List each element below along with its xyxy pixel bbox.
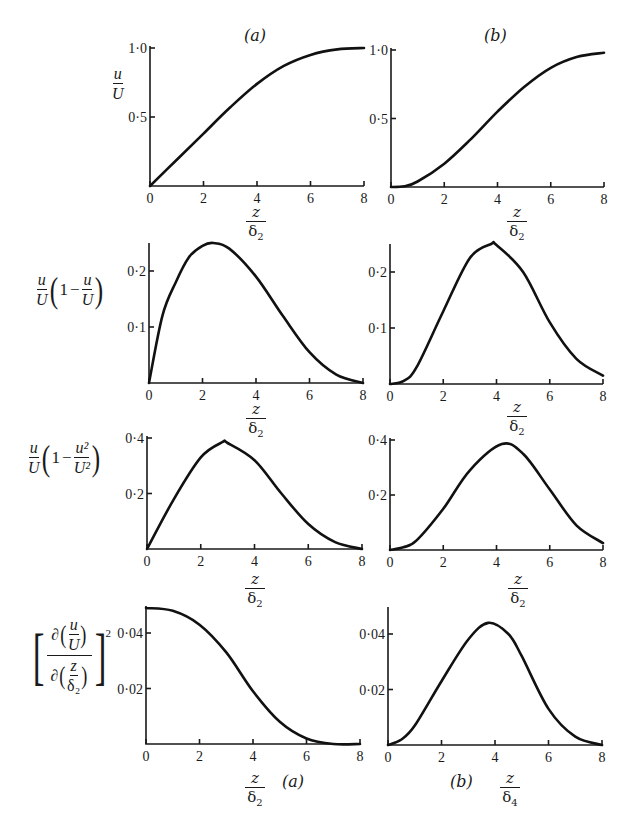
x-tick-label: 4: [251, 554, 258, 569]
x-tick-label: 0: [143, 749, 150, 764]
x-tick-label: 0: [146, 388, 153, 403]
axes-a4: [146, 606, 360, 744]
x-label-b4: zδ4: [500, 771, 520, 808]
x-label-a4: zδ2: [245, 771, 265, 808]
panel-a2: 024680·10·2: [127, 243, 366, 403]
curve-b1: [391, 53, 604, 187]
y-tick-label: 0·2: [368, 265, 387, 280]
x-tick-label: 8: [600, 555, 607, 570]
y-label-row2: uU(1−uU): [36, 272, 105, 308]
x-tick-label: 0: [147, 191, 154, 206]
panel-a1: 024680·51·0: [128, 41, 367, 206]
x-tick-label: 8: [600, 389, 607, 404]
x-tick-label: 2: [199, 388, 206, 403]
y-label-row4: [ ∂(uU) ∂(zδ₂) ] 2: [28, 617, 111, 694]
x-tick-label: 8: [361, 191, 368, 206]
x-tick-label: 8: [360, 388, 367, 403]
y-tick-label: 0·02: [117, 682, 143, 697]
y-tick-label: 0·4: [125, 431, 144, 446]
x-tick-label: 6: [547, 192, 554, 207]
x-tick-label: 2: [441, 192, 448, 207]
y-tick-label: 0·02: [359, 683, 385, 698]
curve-a3: [147, 441, 362, 549]
x-tick-label: 2: [438, 750, 445, 765]
panel-b1: 024680·51·0: [369, 43, 607, 207]
y-tick-label: 0·2: [125, 487, 144, 502]
x-tick-label: 4: [492, 750, 499, 765]
axes-b4: [388, 607, 602, 745]
x-tick-label: 6: [307, 191, 314, 206]
panel-a3: 024680·20·4: [125, 431, 365, 569]
y-tick-label: 0·04: [117, 626, 143, 641]
y-label-row1: uU: [112, 66, 124, 102]
x-label-a1: zδ2: [246, 205, 266, 242]
panel-a4: 024680·020·04: [117, 606, 363, 764]
x-tick-label: 2: [197, 554, 204, 569]
x-tick-label: 2: [440, 389, 447, 404]
x-tick-label: 4: [250, 749, 257, 764]
x-tick-label: 6: [306, 388, 313, 403]
y-tick-label: 0·1: [127, 320, 146, 335]
panel-title-b: (b): [484, 26, 507, 45]
y-tick-label: 0·2: [368, 488, 387, 503]
x-tick-label: 0: [387, 389, 394, 404]
y-tick-label: 1·0: [369, 43, 388, 58]
x-tick-label: 8: [599, 750, 606, 765]
x-tick-label: 2: [440, 555, 447, 570]
caption-a: (a): [282, 772, 304, 791]
x-tick-label: 6: [303, 749, 310, 764]
curve-b4: [388, 623, 602, 745]
curve-a4: [146, 608, 360, 744]
x-tick-label: 6: [546, 389, 553, 404]
y-tick-label: 0·1: [368, 321, 387, 336]
x-tick-label: 8: [359, 554, 366, 569]
x-tick-label: 6: [305, 554, 312, 569]
axes-a1: [150, 46, 364, 186]
panel-b4: 024680·020·04: [359, 607, 605, 765]
x-tick-label: 4: [493, 389, 500, 404]
x-tick-label: 8: [357, 749, 364, 764]
x-tick-label: 8: [601, 192, 608, 207]
axes-b1: [391, 48, 604, 187]
x-label-b1: zδ2: [507, 205, 527, 242]
x-label-a3: zδ2: [245, 572, 265, 609]
panel-title-a: (a): [244, 26, 266, 45]
y-tick-label: 1·0: [128, 41, 147, 56]
caption-b: (b): [450, 772, 473, 791]
x-tick-label: 0: [385, 750, 392, 765]
curve-a1: [150, 48, 364, 186]
curve-a2: [149, 243, 363, 383]
axes-b2: [390, 244, 603, 384]
panel-b2: 024680·10·2: [368, 242, 606, 404]
curve-b2: [390, 242, 603, 384]
x-tick-label: 6: [545, 750, 552, 765]
x-tick-label: 0: [388, 192, 395, 207]
panel-b3: 024680·20·4: [368, 433, 606, 570]
x-label-b3: zδ2: [508, 572, 528, 609]
y-tick-label: 0·5: [128, 110, 147, 125]
x-tick-label: 0: [144, 554, 151, 569]
y-tick-label: 0·04: [359, 627, 385, 642]
x-label-b2: zδ2: [507, 400, 527, 437]
x-tick-label: 4: [493, 555, 500, 570]
x-tick-label: 6: [546, 555, 553, 570]
axes-a2: [149, 243, 363, 383]
x-tick-label: 4: [494, 192, 501, 207]
y-tick-label: 0·4: [368, 433, 387, 448]
y-label-row3: uU(1−u²U²): [28, 440, 102, 476]
x-tick-label: 0: [387, 555, 394, 570]
y-tick-label: 0·5: [369, 112, 388, 127]
y-tick-label: 0·2: [127, 264, 146, 279]
figure-canvas: 024680·51·0024680·51·0024680·10·2024680·…: [0, 0, 637, 825]
curve-b3: [390, 443, 603, 550]
x-tick-label: 2: [196, 749, 203, 764]
x-tick-label: 2: [200, 191, 207, 206]
x-label-a2: zδ2: [246, 402, 266, 439]
